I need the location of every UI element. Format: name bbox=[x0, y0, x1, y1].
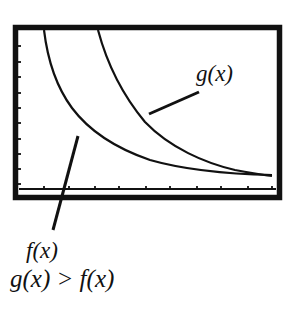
g-curve bbox=[98, 30, 272, 176]
y-axis-ticks bbox=[18, 46, 21, 184]
g-pointer-line bbox=[149, 92, 199, 114]
g-curve-label: g(x) bbox=[196, 61, 233, 86]
relation-label: g(x) > f(x) bbox=[10, 265, 114, 293]
graph-frame bbox=[16, 28, 280, 198]
f-curve-label: f(x) bbox=[26, 238, 58, 263]
f-pointer-line bbox=[53, 136, 78, 230]
f-curve bbox=[44, 30, 272, 175]
function-comparison-figure: g(x) f(x) g(x) > f(x) bbox=[0, 0, 288, 311]
